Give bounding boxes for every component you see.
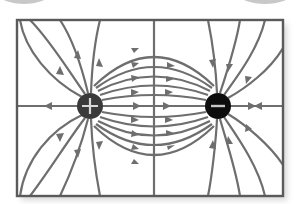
field-lines-diagram [0, 0, 300, 204]
positive-charge [77, 93, 103, 119]
frame-background [17, 20, 283, 196]
negative-charge [205, 93, 231, 119]
